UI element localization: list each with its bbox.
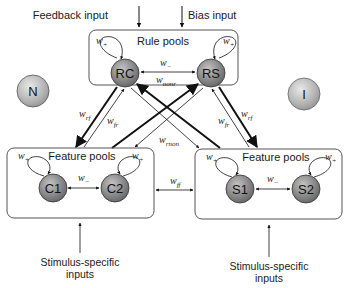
feature-pools-left-box: Feature pools w+ w+ w− — [7, 148, 154, 218]
node-c1: C1 — [39, 174, 67, 202]
feedback-input-label: Feedback input — [33, 9, 108, 21]
rule-pools-title: Rule pools — [137, 35, 189, 47]
rule-w-nonr: wnonr — [156, 74, 176, 88]
node-rc: RC — [111, 59, 139, 87]
stimulus-left-label-2: inputs — [66, 268, 94, 280]
node-i: I — [288, 78, 320, 110]
network-diagram: Feedback input Bias input Rule pools w+ … — [0, 0, 348, 288]
w-rf-right: wrf — [241, 108, 253, 122]
svg-text:S1: S1 — [232, 182, 248, 197]
node-c2: C2 — [101, 174, 129, 202]
svg-text:C1: C1 — [45, 181, 62, 196]
node-n: N — [17, 75, 49, 107]
feature-pools-left-title: Feature pools — [48, 150, 116, 162]
rs-w-plus: w+ — [223, 35, 235, 49]
svg-text:I: I — [302, 87, 306, 102]
stimulus-input-right: Stimulus-specific inputs — [230, 225, 309, 284]
c2-w-plus: w+ — [132, 150, 144, 164]
c1-w-plus: w+ — [18, 150, 30, 164]
feature-pools-right-title: Feature pools — [242, 151, 310, 163]
c1-self-loop — [28, 157, 50, 176]
stimulus-right-label-2: inputs — [255, 272, 283, 284]
bias-input-label: Bias input — [188, 9, 236, 21]
s1-w-plus: w+ — [206, 151, 218, 165]
node-s2: S2 — [292, 175, 320, 203]
stimulus-right-label-1: Stimulus-specific — [230, 260, 309, 272]
c-to-rs-thick — [112, 84, 198, 148]
s1-self-loop — [216, 158, 238, 177]
w-fr-left: wfr — [107, 115, 119, 129]
rs-to-c-rnon — [135, 88, 203, 147]
stimulus-left-label-1: Stimulus-specific — [41, 256, 120, 268]
svg-text:C2: C2 — [107, 181, 124, 196]
svg-text:RC: RC — [116, 66, 135, 81]
rule-feature-connections: wrf wfr wrf wfr wrnon — [76, 84, 257, 148]
svg-text:S2: S2 — [298, 182, 314, 197]
feedback-input: Feedback input — [33, 6, 139, 27]
node-s1: S1 — [226, 175, 254, 203]
bias-input: Bias input — [182, 6, 236, 27]
feature-right-w-minus: w− — [267, 173, 279, 187]
svg-text:RS: RS — [202, 66, 220, 81]
w-fr-right: wfr — [218, 115, 230, 129]
s2-w-plus: w+ — [325, 151, 337, 165]
feature-pools-right-box: Feature pools w+ w+ w− — [195, 149, 342, 219]
stimulus-input-left: Stimulus-specific inputs — [41, 223, 120, 280]
w-ff: wff — [170, 175, 182, 189]
w-rnon: wrnon — [159, 134, 179, 148]
s-to-rc-thick — [137, 84, 220, 148]
svg-text:N: N — [28, 84, 37, 99]
rule-w-minus: w− — [160, 57, 172, 71]
w-rf-left: wrf — [79, 108, 91, 122]
node-rs: RS — [197, 59, 225, 87]
feature-left-w-minus: w− — [78, 172, 90, 186]
